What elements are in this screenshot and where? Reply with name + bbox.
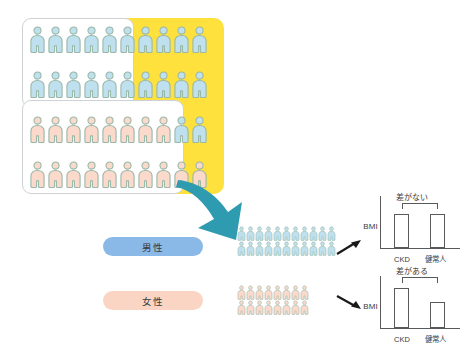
cohort-row <box>29 116 209 143</box>
female-chart-tick-healthy: 健常人 <box>418 333 452 344</box>
person-icon <box>119 26 136 53</box>
person-icon <box>137 116 154 143</box>
person-icon <box>300 285 309 300</box>
person-icon <box>255 241 264 256</box>
person-icon <box>29 26 46 53</box>
female-chart-plot: 差がある CKD 健常人 <box>380 276 462 346</box>
person-icon <box>273 285 282 300</box>
person-icon <box>300 300 309 315</box>
female-chart-ylabel: BMI <box>352 302 378 311</box>
cohort-row <box>29 71 209 98</box>
person-icon <box>101 116 118 143</box>
person-icon <box>137 71 154 98</box>
person-icon <box>273 300 282 315</box>
male-chart-bar-ckd <box>394 214 409 248</box>
group-label-male: 男性 <box>103 237 203 256</box>
cohort-row <box>29 26 209 53</box>
person-icon <box>101 161 118 188</box>
person-icon <box>173 71 190 98</box>
person-icon <box>264 285 273 300</box>
person-icon <box>119 71 136 98</box>
person-icon <box>191 116 208 143</box>
female-chart-bracket <box>402 277 438 283</box>
male-chart-tick-ckd: CKD <box>385 255 419 264</box>
person-icon <box>47 26 64 53</box>
person-icon <box>137 26 154 53</box>
male-chart-y-axis <box>380 196 381 248</box>
person-icon <box>191 26 208 53</box>
person-icon <box>246 300 255 315</box>
person-icon <box>282 241 291 256</box>
person-icon <box>246 241 255 256</box>
person-icon <box>47 71 64 98</box>
group-label-male-text: 男性 <box>142 240 164 254</box>
female-chart-bar-ckd <box>394 288 409 328</box>
male-person-group <box>237 226 336 256</box>
person-icon <box>47 116 64 143</box>
person-icon <box>291 285 300 300</box>
person-icon <box>255 285 264 300</box>
person-icon <box>65 71 82 98</box>
person-icon <box>255 226 264 241</box>
person-icon <box>282 300 291 315</box>
person-icon <box>309 226 318 241</box>
person-icon <box>237 241 246 256</box>
person-icon <box>327 241 336 256</box>
person-icon <box>173 26 190 53</box>
person-icon <box>264 226 273 241</box>
person-icon <box>155 116 172 143</box>
figure-canvas: 男性 女性 BMI 差がない CKD 健常人 BM <box>0 0 469 356</box>
male-chart-ylabel: BMI <box>352 222 378 231</box>
group-label-female: 女性 <box>103 291 203 310</box>
person-icon <box>237 285 246 300</box>
person-icon <box>264 241 273 256</box>
person-icon <box>83 116 100 143</box>
male-person-row <box>237 226 336 241</box>
male-chart-bracket <box>402 203 438 209</box>
person-icon <box>29 161 46 188</box>
person-icon <box>83 161 100 188</box>
person-icon <box>300 241 309 256</box>
male-chart-tick-healthy: 健常人 <box>418 253 452 264</box>
person-icon <box>155 161 172 188</box>
female-chart-x-axis <box>380 328 460 329</box>
person-icon <box>173 116 190 143</box>
person-icon <box>155 26 172 53</box>
person-icon <box>246 285 255 300</box>
female-chart-y-axis <box>380 276 381 328</box>
male-chart-annotation: 差がない <box>396 191 429 202</box>
male-chart-bar-healthy <box>430 214 445 248</box>
female-person-row <box>237 300 309 315</box>
female-chart-bar-healthy <box>430 302 445 328</box>
person-icon <box>65 26 82 53</box>
person-icon <box>65 161 82 188</box>
person-icon <box>282 226 291 241</box>
person-icon <box>119 161 136 188</box>
person-icon <box>101 26 118 53</box>
person-icon <box>327 226 336 241</box>
group-label-female-text: 女性 <box>142 294 164 308</box>
person-icon <box>246 226 255 241</box>
female-person-row <box>237 285 309 300</box>
male-chart-x-axis <box>380 248 460 249</box>
person-icon <box>291 300 300 315</box>
person-icon <box>273 226 282 241</box>
person-icon <box>282 285 291 300</box>
person-icon <box>291 241 300 256</box>
person-icon <box>318 241 327 256</box>
person-icon <box>237 300 246 315</box>
female-chart-tick-ckd: CKD <box>385 335 419 344</box>
cohort-panel <box>14 12 214 192</box>
female-person-group <box>237 285 309 315</box>
person-icon <box>137 161 154 188</box>
person-icon <box>47 161 64 188</box>
person-icon <box>29 116 46 143</box>
person-icon <box>273 241 282 256</box>
female-chart-annotation: 差がある <box>396 265 429 276</box>
person-icon <box>237 226 246 241</box>
person-icon <box>83 26 100 53</box>
female-bmi-chart: BMI 差がある CKD 健常人 <box>352 272 464 346</box>
person-icon <box>65 116 82 143</box>
person-icon <box>101 71 118 98</box>
person-icon <box>309 241 318 256</box>
